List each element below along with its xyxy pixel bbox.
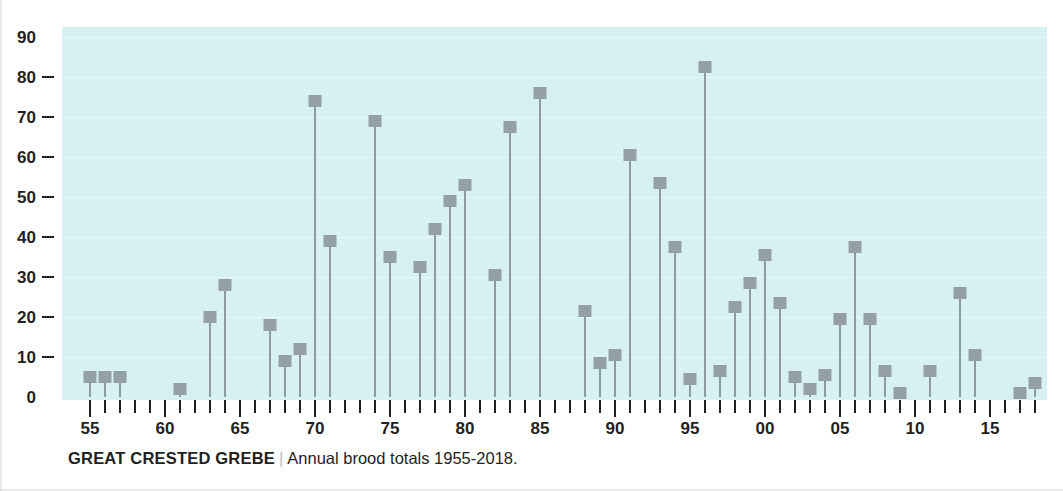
x-axis-minor-tick — [554, 400, 556, 413]
data-stem — [509, 127, 511, 397]
gridline — [62, 237, 1047, 238]
data-point-marker — [384, 251, 397, 263]
data-point-marker — [669, 241, 682, 253]
data-point-marker — [309, 95, 322, 107]
data-point-marker — [789, 371, 802, 383]
data-point-marker — [624, 149, 637, 161]
x-axis-major-tick — [164, 400, 166, 417]
data-point-marker — [99, 371, 112, 383]
x-axis-minor-tick — [434, 400, 436, 413]
data-stem — [224, 285, 226, 397]
data-point-marker — [924, 365, 937, 377]
data-stem — [659, 183, 661, 397]
data-stem — [539, 93, 541, 397]
x-axis-tick-label: 00 — [756, 420, 775, 437]
data-point-marker — [609, 349, 622, 361]
x-axis-minor-tick — [134, 400, 136, 413]
data-point-marker — [759, 249, 772, 261]
data-point-marker — [444, 195, 457, 207]
gridline — [62, 77, 1047, 78]
x-axis-tick-label: 75 — [381, 420, 400, 437]
caption-separator: | — [275, 449, 287, 467]
data-point-marker — [894, 387, 907, 399]
y-axis-tick-mark — [42, 196, 54, 198]
data-stem — [329, 241, 331, 397]
data-stem — [749, 283, 751, 397]
x-axis-minor-tick — [254, 400, 256, 413]
data-point-marker — [84, 371, 97, 383]
data-point-marker — [729, 301, 742, 313]
data-point-marker — [804, 383, 817, 395]
data-point-marker — [264, 319, 277, 331]
x-axis-major-tick — [89, 400, 91, 417]
data-stem — [854, 247, 856, 397]
data-point-marker — [714, 365, 727, 377]
data-stem — [974, 355, 976, 397]
x-axis-tick-label: 60 — [156, 420, 175, 437]
data-stem — [704, 67, 706, 397]
data-point-marker — [819, 369, 832, 381]
x-axis-minor-tick — [854, 400, 856, 413]
data-point-marker — [504, 121, 517, 133]
data-point-marker — [1014, 387, 1027, 399]
x-axis-minor-tick — [284, 400, 286, 413]
y-axis-tick-mark — [42, 276, 54, 278]
x-axis-tick-label: 85 — [531, 420, 550, 437]
data-point-marker — [459, 179, 472, 191]
data-stem — [299, 349, 301, 397]
data-stem — [839, 319, 841, 397]
data-stem — [674, 247, 676, 397]
data-stem — [584, 311, 586, 397]
x-axis-tick-label: 55 — [81, 420, 100, 437]
data-stem — [614, 355, 616, 397]
data-stem — [959, 293, 961, 397]
x-axis-minor-tick — [194, 400, 196, 413]
y-axis-tick-label: 30 — [17, 269, 36, 286]
x-axis-minor-tick — [959, 400, 961, 413]
x-axis-minor-tick — [269, 400, 271, 413]
y-axis-tick-label: 80 — [17, 69, 36, 86]
data-point-marker — [834, 313, 847, 325]
x-axis-minor-tick — [749, 400, 751, 413]
data-stem — [464, 185, 466, 397]
data-point-marker — [594, 357, 607, 369]
x-axis-major-tick — [764, 400, 766, 417]
y-axis-tick-label: 20 — [17, 309, 36, 326]
data-stem — [269, 325, 271, 397]
data-stem — [449, 201, 451, 397]
x-axis-minor-tick — [374, 400, 376, 413]
y-axis-tick-label: 90 — [17, 29, 36, 46]
x-axis-tick-label: 10 — [906, 420, 925, 437]
y-axis-tick-mark — [42, 156, 54, 158]
x-axis-minor-tick — [569, 400, 571, 413]
x-axis-minor-tick — [509, 400, 511, 413]
data-point-marker — [414, 261, 427, 273]
x-axis-tick-label: 70 — [306, 420, 325, 437]
y-axis-tick-label: 40 — [17, 229, 36, 246]
gridline — [62, 277, 1047, 278]
x-axis-minor-tick — [209, 400, 211, 413]
x-axis-minor-tick — [404, 400, 406, 413]
x-axis-minor-tick — [794, 400, 796, 413]
x-axis-major-tick — [539, 400, 541, 417]
data-stem — [734, 307, 736, 397]
data-point-marker — [429, 223, 442, 235]
gridline — [62, 37, 1047, 38]
x-axis-minor-tick — [1019, 400, 1021, 413]
x-axis-minor-tick — [659, 400, 661, 413]
x-axis-minor-tick — [704, 400, 706, 413]
y-axis-tick-mark — [42, 316, 54, 318]
data-point-marker — [1029, 377, 1042, 389]
data-stem — [779, 303, 781, 397]
data-point-marker — [654, 177, 667, 189]
x-axis-minor-tick — [359, 400, 361, 413]
x-axis-minor-tick — [974, 400, 976, 413]
x-axis-minor-tick — [1034, 400, 1036, 413]
gridline — [62, 117, 1047, 118]
data-stem — [209, 317, 211, 397]
data-point-marker — [219, 279, 232, 291]
x-axis-tick-label: 90 — [606, 420, 625, 437]
x-axis-tick-label: 65 — [231, 420, 250, 437]
data-stem — [764, 255, 766, 397]
data-point-marker — [489, 269, 502, 281]
